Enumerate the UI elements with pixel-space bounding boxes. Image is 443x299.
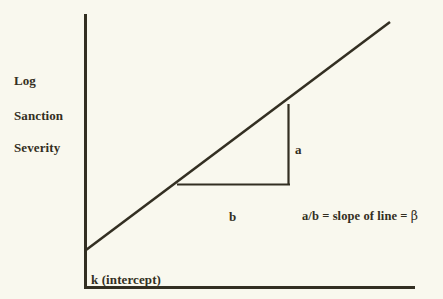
slope-equation: a/b = slope of line = β <box>302 210 418 223</box>
beta-symbol: β <box>411 208 418 223</box>
slope-equation-text: a/b = slope of line = <box>302 209 411 223</box>
plot-canvas <box>0 0 443 299</box>
x-axis-intercept-label: k (intercept) <box>91 273 161 286</box>
sanction-severity-figure: Log Sanction Severity a b a/b = slope of… <box>0 0 443 299</box>
y-axis-label-line-2: Sanction <box>14 109 63 122</box>
run-label-b: b <box>229 210 236 223</box>
y-axis-label-line-1: Log <box>14 74 36 87</box>
rise-label-a: a <box>295 143 302 156</box>
y-axis-label-line-3: Severity <box>14 141 60 154</box>
